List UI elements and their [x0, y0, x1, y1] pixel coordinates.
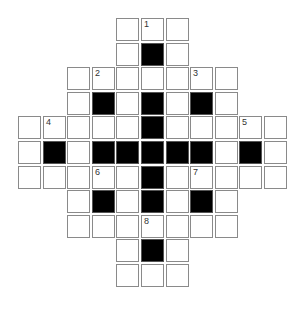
- crossword-cell[interactable]: [215, 116, 238, 139]
- crossword-cell[interactable]: [190, 116, 213, 139]
- crossword-cell[interactable]: [116, 43, 139, 66]
- black-cell: [92, 92, 115, 115]
- crossword-cell[interactable]: [166, 116, 189, 139]
- black-cell: [141, 166, 164, 189]
- crossword-cell[interactable]: [215, 141, 238, 164]
- crossword-cell[interactable]: [166, 215, 189, 238]
- crossword-cell[interactable]: [67, 215, 90, 238]
- crossword-cell[interactable]: [116, 92, 139, 115]
- crossword-cell[interactable]: [215, 215, 238, 238]
- crossword-cell[interactable]: [215, 190, 238, 213]
- crossword-cell[interactable]: [67, 141, 90, 164]
- crossword-grid: 12345678: [0, 0, 308, 315]
- crossword-cell[interactable]: [116, 190, 139, 213]
- crossword-cell[interactable]: [18, 116, 41, 139]
- clue-number: 2: [95, 68, 100, 78]
- crossword-cell[interactable]: 2: [92, 67, 115, 90]
- crossword-cell[interactable]: [92, 116, 115, 139]
- black-cell: [239, 141, 262, 164]
- crossword-cell[interactable]: [166, 190, 189, 213]
- clue-number: 1: [144, 19, 149, 29]
- crossword-cell[interactable]: [18, 141, 41, 164]
- crossword-cell[interactable]: [239, 166, 262, 189]
- black-cell: [92, 190, 115, 213]
- crossword-cell[interactable]: [67, 166, 90, 189]
- black-cell: [141, 141, 164, 164]
- crossword-cell[interactable]: [116, 264, 139, 287]
- crossword-cell[interactable]: [116, 239, 139, 262]
- crossword-cell[interactable]: [166, 239, 189, 262]
- crossword-cell[interactable]: [166, 67, 189, 90]
- crossword-cell[interactable]: 4: [43, 116, 66, 139]
- crossword-cell[interactable]: [18, 166, 41, 189]
- black-cell: [190, 141, 213, 164]
- black-cell: [141, 190, 164, 213]
- clue-number: 3: [193, 68, 198, 78]
- black-cell: [190, 92, 213, 115]
- black-cell: [190, 190, 213, 213]
- crossword-cell[interactable]: [141, 67, 164, 90]
- crossword-cell[interactable]: [264, 141, 287, 164]
- black-cell: [92, 141, 115, 164]
- crossword-cell[interactable]: [264, 116, 287, 139]
- crossword-cell[interactable]: 3: [190, 67, 213, 90]
- crossword-cell[interactable]: 6: [92, 166, 115, 189]
- crossword-cell[interactable]: 7: [190, 166, 213, 189]
- crossword-cell[interactable]: [67, 190, 90, 213]
- clue-number: 8: [144, 216, 149, 226]
- crossword-cell[interactable]: [166, 18, 189, 41]
- crossword-cell[interactable]: [116, 18, 139, 41]
- crossword-cell[interactable]: [116, 67, 139, 90]
- crossword-cell[interactable]: [166, 166, 189, 189]
- black-cell: [141, 116, 164, 139]
- crossword-cell[interactable]: [116, 215, 139, 238]
- black-cell: [166, 141, 189, 164]
- crossword-cell[interactable]: [264, 166, 287, 189]
- clue-number: 5: [242, 117, 247, 127]
- crossword-cell[interactable]: [141, 264, 164, 287]
- crossword-cell[interactable]: [190, 215, 213, 238]
- crossword-cell[interactable]: [166, 43, 189, 66]
- crossword-cell[interactable]: 1: [141, 18, 164, 41]
- black-cell: [43, 141, 66, 164]
- black-cell: [116, 141, 139, 164]
- crossword-cell[interactable]: 8: [141, 215, 164, 238]
- clue-number: 7: [193, 167, 198, 177]
- crossword-cell[interactable]: [215, 166, 238, 189]
- crossword-cell[interactable]: [166, 264, 189, 287]
- clue-number: 4: [46, 117, 51, 127]
- crossword-cell[interactable]: [67, 116, 90, 139]
- crossword-cell[interactable]: [67, 92, 90, 115]
- crossword-cell[interactable]: [215, 67, 238, 90]
- black-cell: [141, 43, 164, 66]
- crossword-cell[interactable]: [92, 215, 115, 238]
- clue-number: 6: [95, 167, 100, 177]
- black-cell: [141, 239, 164, 262]
- crossword-cell[interactable]: [215, 92, 238, 115]
- crossword-cell[interactable]: [116, 116, 139, 139]
- crossword-cell[interactable]: 5: [239, 116, 262, 139]
- crossword-cell[interactable]: [116, 166, 139, 189]
- crossword-cell[interactable]: [43, 166, 66, 189]
- crossword-cell[interactable]: [166, 92, 189, 115]
- crossword-cell[interactable]: [67, 67, 90, 90]
- black-cell: [141, 92, 164, 115]
